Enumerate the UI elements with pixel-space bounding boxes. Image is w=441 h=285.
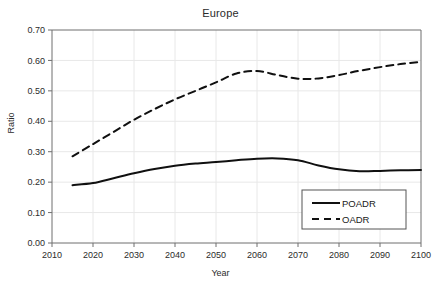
svg-text:2060: 2060 xyxy=(247,250,267,260)
svg-text:2030: 2030 xyxy=(124,250,144,260)
svg-text:0.70: 0.70 xyxy=(27,25,45,35)
svg-text:2100: 2100 xyxy=(411,250,431,260)
svg-text:0.00: 0.00 xyxy=(27,238,45,248)
series-line-oadr xyxy=(73,62,422,156)
legend-label-oadr: OADR xyxy=(342,214,370,225)
svg-text:2080: 2080 xyxy=(329,250,349,260)
svg-text:2070: 2070 xyxy=(288,250,308,260)
svg-text:0.60: 0.60 xyxy=(27,56,45,66)
svg-text:2040: 2040 xyxy=(165,250,185,260)
y-axis-label: Ratio xyxy=(6,98,16,148)
svg-text:0.30: 0.30 xyxy=(27,147,45,157)
x-axis-label: Year xyxy=(0,268,441,278)
svg-text:0.20: 0.20 xyxy=(27,177,45,187)
chart-plot: 0.000.100.200.300.400.500.600.7020102020… xyxy=(0,0,441,285)
chart-container: Europe 0.000.100.200.300.400.500.600.702… xyxy=(0,0,441,285)
svg-text:2050: 2050 xyxy=(206,250,226,260)
legend-label-poadr: POADR xyxy=(342,198,376,209)
svg-text:0.10: 0.10 xyxy=(27,208,45,218)
data-series xyxy=(73,62,422,185)
svg-text:0.40: 0.40 xyxy=(27,116,45,126)
svg-text:2090: 2090 xyxy=(370,250,390,260)
series-line-poadr xyxy=(73,158,422,185)
svg-text:2010: 2010 xyxy=(42,250,62,260)
svg-text:0.50: 0.50 xyxy=(27,86,45,96)
chart-legend: POADROADR xyxy=(302,190,406,229)
svg-text:2020: 2020 xyxy=(83,250,103,260)
